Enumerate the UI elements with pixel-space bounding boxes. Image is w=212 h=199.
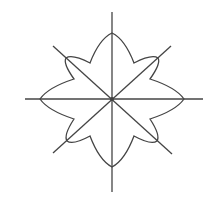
axis-lines [25,12,203,192]
rosette-svg [0,0,212,199]
rosette-diagram [0,0,212,199]
center-point [110,97,114,101]
